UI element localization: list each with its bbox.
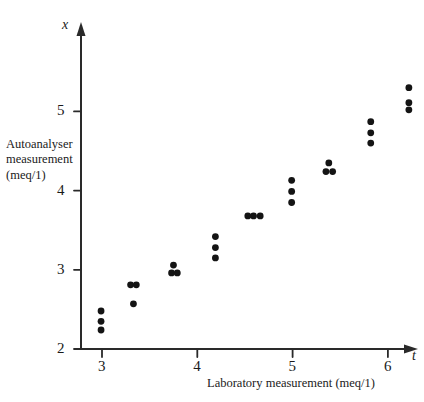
data-point	[325, 159, 332, 166]
x-tick-label: 6	[384, 359, 392, 374]
data-point	[98, 327, 105, 334]
x-axis-title: Laboratory measurement (meq/1)	[207, 376, 375, 391]
data-point	[212, 255, 219, 262]
data-point	[367, 118, 374, 125]
y-tick-label: 3	[57, 262, 65, 277]
data-point	[98, 308, 105, 315]
data-point	[212, 233, 219, 240]
data-point	[329, 168, 336, 175]
y-tick-label: 2	[57, 341, 65, 356]
data-point	[323, 168, 330, 175]
y-axis-title: Autoanalyser measurement (meq/1)	[6, 137, 73, 183]
x-tick-label: 5	[289, 359, 297, 374]
y-tick-label: 4	[57, 183, 65, 198]
data-point	[288, 188, 295, 195]
y-axis-title-line-1: Autoanalyser	[6, 137, 73, 152]
data-point	[212, 244, 219, 251]
y-tick-label: 5	[57, 103, 65, 118]
x-axis-variable-symbol: t	[412, 349, 416, 363]
data-point	[405, 106, 412, 113]
x-tick-label: 3	[98, 359, 106, 374]
data-point	[405, 99, 412, 106]
y-axis-title-line-3: (meq/1)	[6, 168, 73, 183]
data-point	[170, 262, 177, 269]
data-point	[174, 270, 181, 277]
y-axis-arrowhead	[77, 22, 86, 36]
axes-group	[77, 22, 419, 354]
data-point	[250, 213, 257, 220]
x-axis-ticks	[102, 349, 388, 357]
data-point	[130, 300, 137, 307]
data-point	[133, 281, 140, 288]
y-axis-variable-symbol: x	[62, 18, 68, 32]
x-tick-label: 4	[193, 359, 201, 374]
data-point	[98, 318, 105, 325]
y-axis-ticks	[74, 111, 81, 349]
data-points-group	[98, 84, 413, 333]
data-point	[405, 84, 412, 91]
scatter-plot-figure: x t Autoanalyser measurement (meq/1) Lab…	[0, 0, 424, 402]
data-point	[257, 213, 264, 220]
data-point	[367, 129, 374, 136]
y-axis-title-line-2: measurement	[6, 152, 73, 167]
data-point	[367, 140, 374, 147]
data-point	[288, 199, 295, 206]
data-point	[288, 177, 295, 184]
